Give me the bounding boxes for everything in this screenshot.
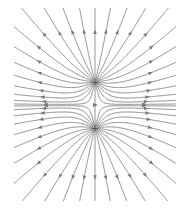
field-line-diagram: ++ — [0, 0, 188, 209]
arrow-icon — [149, 146, 155, 151]
arrow-icon — [145, 111, 150, 115]
field-line — [79, 130, 95, 207]
arrow-icon — [57, 30, 62, 36]
arrow-icon — [42, 100, 47, 104]
arrow-icon — [36, 146, 42, 151]
field-line — [97, 3, 173, 81]
field-lines — [8, 2, 181, 206]
arrow-icon — [36, 135, 41, 140]
arrow-icon — [40, 95, 45, 99]
plus-sign-icon: + — [91, 123, 99, 133]
arrow-icon — [36, 70, 41, 75]
arrow-icon — [93, 30, 97, 35]
arrow-icon — [144, 107, 149, 111]
arrow-icon — [115, 175, 120, 181]
arrow-icon — [128, 30, 133, 36]
arrow-icon — [42, 107, 47, 111]
field-line — [96, 130, 112, 207]
arrow-icon — [57, 173, 62, 179]
arrow-icon — [149, 59, 155, 64]
arrow-icon — [36, 59, 42, 64]
arrow-icon — [93, 175, 97, 180]
arrow-icon — [148, 70, 153, 75]
arrow-icon — [70, 29, 75, 35]
plus-sign-icon: + — [91, 77, 99, 87]
arrow-icon — [115, 29, 120, 35]
field-line — [96, 3, 112, 81]
arrow-icon — [148, 135, 153, 140]
arrow-icon — [70, 175, 75, 181]
arrow-icon — [144, 100, 149, 104]
field-line — [17, 3, 93, 81]
arrow-icon — [145, 95, 150, 99]
arrow-icon — [40, 111, 45, 115]
arrow-icon — [128, 173, 133, 179]
field-line — [79, 3, 95, 81]
